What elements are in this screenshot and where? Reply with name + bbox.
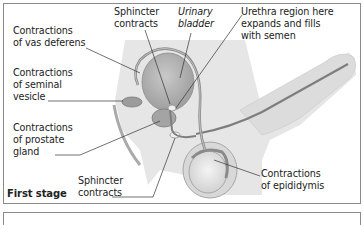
label-sphincter-upper: Sphincter contracts	[114, 6, 159, 30]
label-urethra-region: Urethra region here expands and fills wi…	[241, 6, 333, 42]
seminal-vesicle	[122, 97, 142, 107]
label-epididymis: Contractions of epididymis	[261, 168, 324, 192]
urinary-bladder	[142, 53, 194, 111]
label-prostate-gland: Contractions of prostate gland	[13, 122, 73, 158]
label-seminal-vesicle: Contractions of seminal vesicle	[13, 67, 73, 103]
stage-title: First stage	[7, 188, 67, 200]
label-sphincter-lower: Sphincter contracts	[78, 175, 123, 199]
label-vas-deferens: Contractions of vas deferens	[13, 25, 85, 49]
label-urinary-bladder: Urinary bladder	[178, 6, 214, 30]
